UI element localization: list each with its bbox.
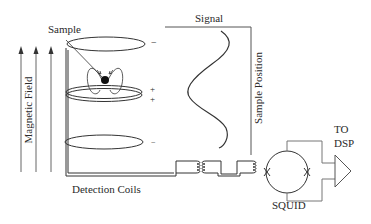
polarity-bottom: − xyxy=(151,138,156,147)
polarity-top: − xyxy=(151,37,157,48)
coil-middle xyxy=(66,86,142,99)
squid xyxy=(264,141,351,201)
polarity-middle-lower: + xyxy=(150,94,155,104)
signal-plot xyxy=(165,27,251,155)
detection-coils xyxy=(65,37,196,176)
detection-coils-label: Detection Coils xyxy=(72,183,141,195)
josephson-junction-right-icon xyxy=(304,168,310,176)
signal-label: Signal xyxy=(195,12,223,24)
to-label: TO xyxy=(334,123,349,135)
squid-diagram: Magnetic Field − + + − Sample Signal Sam… xyxy=(0,0,371,224)
polarity-middle-upper: + xyxy=(150,84,155,94)
transformer xyxy=(176,161,256,176)
squid-loop xyxy=(266,151,308,193)
coil-bottom xyxy=(65,135,143,149)
signal-curve xyxy=(188,31,229,148)
sample-position-label: Sample Position xyxy=(252,52,264,124)
dsp-label: DSP xyxy=(334,137,354,149)
sample-dot-icon xyxy=(101,76,109,84)
sample-label: Sample xyxy=(48,23,81,35)
amplifier-triangle-icon xyxy=(335,155,351,187)
squid-label: SQUID xyxy=(272,199,306,211)
sample-pointer-line xyxy=(66,40,103,78)
josephson-junction-left-icon xyxy=(264,168,270,176)
coil-top xyxy=(67,37,145,51)
magnetic-field-label: Magnetic Field xyxy=(22,76,34,143)
